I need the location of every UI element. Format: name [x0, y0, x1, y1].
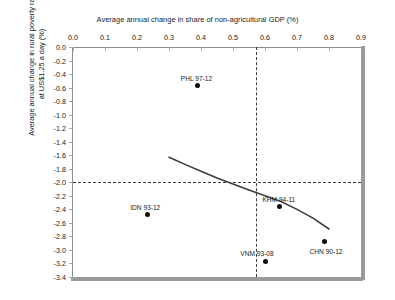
x-tick-label: 0.8	[314, 33, 344, 42]
y-tick-label: -1.2	[42, 124, 66, 133]
x-tick-label: 0.1	[90, 33, 120, 42]
y-tick-label: -3.0	[42, 246, 66, 255]
y-tick-label: -1.0	[42, 111, 66, 120]
y-tick-label: -0.2	[42, 57, 66, 66]
x-tick-mark	[361, 47, 362, 51]
x-tick-label: 0.5	[218, 33, 248, 42]
y-tick-label: -0.6	[42, 84, 66, 93]
data-point[interactable]	[263, 259, 268, 264]
trend-curve	[73, 47, 361, 277]
y-tick-label: -3.4	[42, 273, 66, 282]
x-tick-label: 0.6	[250, 33, 280, 42]
data-point-label: PHL 97-12	[181, 75, 212, 82]
y-tick-label: -2.6	[42, 219, 66, 228]
y-tick-label: -3.2	[42, 259, 66, 268]
y-tick-label: -1.4	[42, 138, 66, 147]
y-tick-mark	[69, 277, 73, 278]
plot-border-right	[361, 46, 365, 280]
x-tick-label: 0.0	[58, 33, 88, 42]
data-point-label: IDN 93-12	[130, 204, 160, 211]
y-axis-title-line-1: Average annual change in rural poverty r…	[27, 0, 37, 175]
data-point-label: VNM 93-08	[240, 250, 273, 257]
data-point[interactable]	[145, 212, 150, 217]
x-tick-label: 0.7	[282, 33, 312, 42]
x-tick-label: 0.4	[186, 33, 216, 42]
y-tick-label: -2.4	[42, 205, 66, 214]
plot-area: PHL 97-12IDN 93-12KHM 94-11VNM 93-08CHN …	[73, 47, 361, 277]
y-tick-label: -0.4	[42, 70, 66, 79]
y-tick-label: -0.8	[42, 97, 66, 106]
chart-title: Average annual change in share of non-ag…	[0, 15, 395, 24]
x-tick-label: 0.2	[122, 33, 152, 42]
data-point-label: KHM 94-11	[262, 196, 295, 203]
plot-border-bottom	[71, 277, 363, 281]
y-tick-label: -2.0	[42, 178, 66, 187]
y-tick-label: -1.6	[42, 151, 66, 160]
y-tick-label: -2.8	[42, 232, 66, 241]
y-tick-label: -2.2	[42, 192, 66, 201]
x-tick-label: 0.9	[346, 33, 376, 42]
y-tick-label: -1.8	[42, 165, 66, 174]
chart-figure: Average annual change in share of non-ag…	[0, 0, 395, 300]
data-point-label: CHN 90-12	[310, 248, 343, 255]
y-tick-label: 0.0	[42, 43, 66, 52]
x-tick-label: 0.3	[154, 33, 184, 42]
